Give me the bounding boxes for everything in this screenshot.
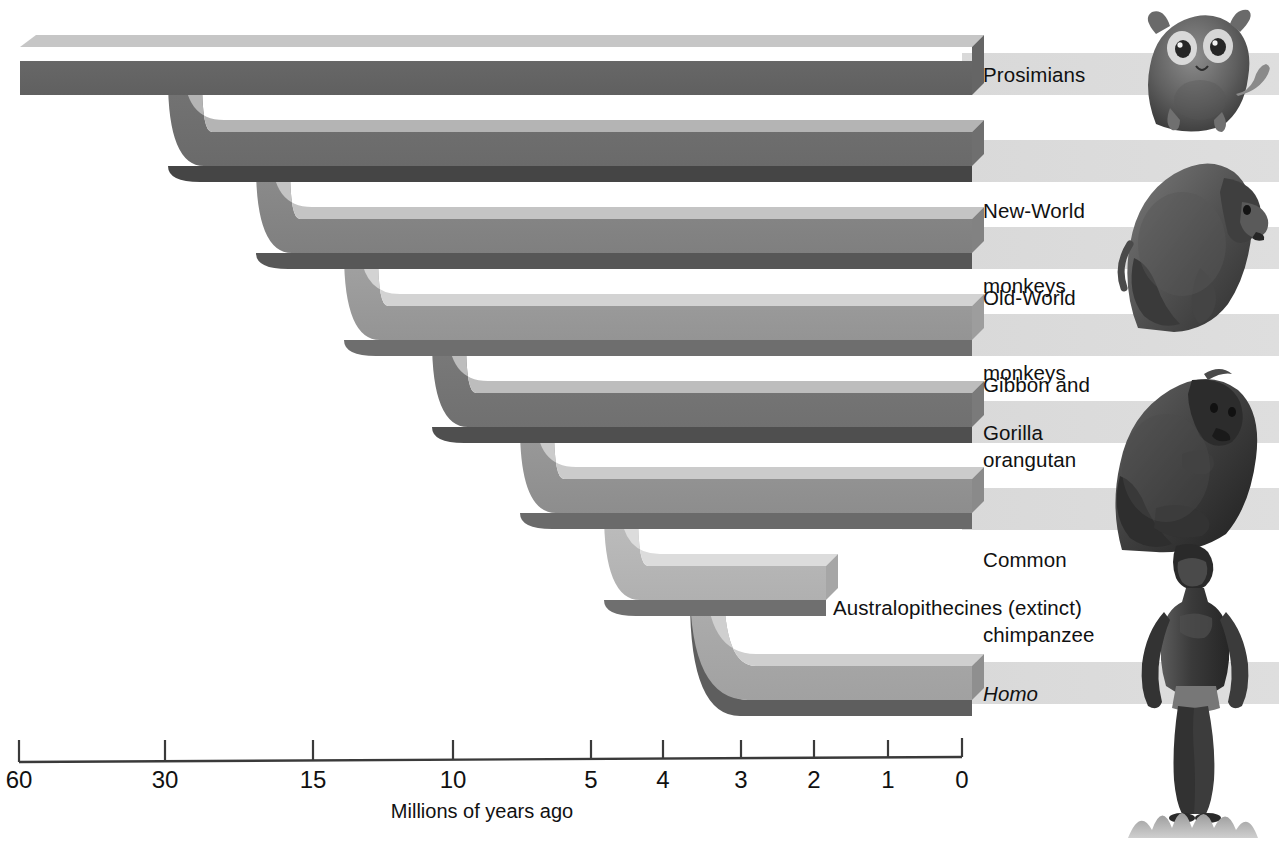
tip-label-line: Old-World [983,285,1076,310]
human-illustration [1112,540,1274,838]
tip-label-prosimians: Prosimians [983,62,1085,87]
tip-label-line: chimpanzee [983,622,1095,647]
tip-label-homo: Homo [983,681,1038,706]
axis-tick-label-10: 10 [440,766,467,794]
time-axis [19,738,962,762]
axis-tick-label-60: 60 [6,766,33,794]
tip-label-line: orangutan [983,447,1090,472]
tip-label-australopithecines: Australopithecines (extinct) [833,595,1082,620]
tarsier-illustration [1126,4,1278,136]
axis-tick-label-3: 3 [734,766,747,794]
axis-tick-label-15: 15 [300,766,327,794]
figure-canvas: Prosimians New-World monkeys Old-World m… [0,0,1279,842]
tip-label-line: Gibbon and [983,372,1090,397]
tip-label-line: New-World [983,198,1085,223]
gorilla-illustration [1096,358,1274,556]
axis-tick-label-5: 5 [584,766,597,794]
axis-tick-label-4: 4 [656,766,669,794]
tip-label-line: Common [983,547,1095,572]
branch-prosimians [20,35,984,95]
axis-tick-label-1: 1 [881,766,894,794]
axis-tick-label-2: 2 [807,766,820,794]
baboon-illustration [1104,148,1276,334]
axis-tick-label-30: 30 [152,766,179,794]
tip-label-gorilla: Gorilla [983,420,1043,445]
axis-tick-label-0: 0 [955,766,968,794]
axis-caption: Millions of years ago [391,800,573,823]
